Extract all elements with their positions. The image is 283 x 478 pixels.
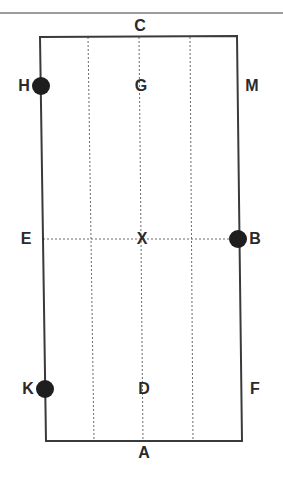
letter-e: E <box>21 231 32 247</box>
H-marker-dot <box>32 77 50 95</box>
letter-f: F <box>250 381 260 397</box>
letter-d: D <box>138 381 150 397</box>
letter-m: M <box>245 78 258 94</box>
letter-a: A <box>138 445 150 461</box>
letter-h: H <box>18 78 30 94</box>
B-marker-dot <box>229 230 247 248</box>
letter-k: K <box>22 381 34 397</box>
letter-b: B <box>249 231 261 247</box>
letter-x: X <box>137 231 148 247</box>
letter-c: C <box>134 18 146 34</box>
letter-g: G <box>135 78 147 94</box>
dressage-arena-diagram: C H G M E X B K D F A <box>0 0 283 478</box>
K-marker-dot <box>36 380 54 398</box>
